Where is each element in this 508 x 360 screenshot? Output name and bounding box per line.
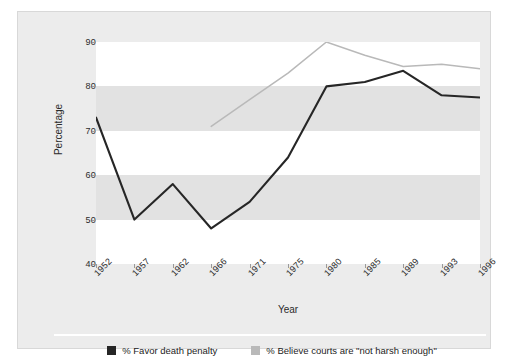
legend-item[interactable]: % Favor death penalty	[107, 345, 217, 356]
chart-legend: % Favor death penalty% Believe courts ar…	[54, 342, 490, 358]
x-axis-label: Year	[96, 304, 480, 315]
plot-area	[96, 42, 480, 264]
series-line	[96, 71, 480, 229]
legend-swatch	[251, 346, 260, 355]
legend-divider	[54, 334, 486, 336]
chart-panel: Percentage 405060708090 1952195719621966…	[17, 11, 491, 349]
legend-label: % Believe courts are "not harsh enough"	[266, 345, 436, 356]
legend-swatch	[107, 346, 116, 355]
legend-item[interactable]: % Believe courts are "not harsh enough"	[251, 345, 436, 356]
chart-figure: Percentage 405060708090 1952195719621966…	[0, 0, 508, 360]
x-axis: 1952195719621966197119751980198519891993…	[96, 264, 480, 306]
y-axis-label: Percentage	[53, 70, 64, 190]
series-lines	[96, 42, 480, 264]
y-axis: 405060708090	[66, 42, 96, 264]
legend-label: % Favor death penalty	[122, 345, 217, 356]
